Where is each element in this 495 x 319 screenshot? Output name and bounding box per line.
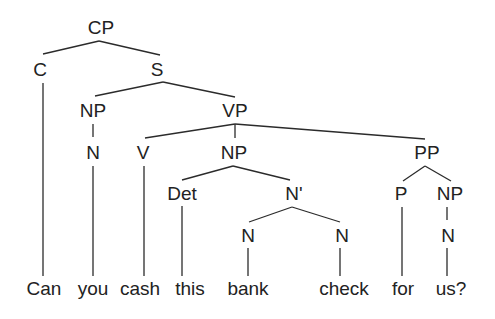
tree-node-det: Det: [167, 184, 197, 203]
tree-edge: [292, 207, 340, 222]
tree-edge: [249, 207, 292, 222]
tree-node-n4: N: [441, 226, 455, 245]
tree-edge: [235, 124, 425, 139]
word-for: for: [392, 279, 414, 298]
tree-edge: [99, 41, 160, 55]
tree-node-cp: CP: [88, 18, 114, 37]
tree-node-nbar: N': [285, 184, 302, 203]
tree-edge: [233, 166, 290, 180]
tree-node-n1: N: [86, 143, 100, 162]
tree-edge: [425, 166, 451, 181]
word-check: check: [319, 279, 369, 298]
tree-node-np1: NP: [80, 101, 106, 120]
tree-edge: [182, 166, 233, 180]
tree-node-pp: PP: [414, 143, 439, 162]
tree-node-p: P: [395, 184, 408, 203]
tree-edge: [43, 41, 99, 54]
word-can: Can: [27, 279, 62, 298]
tree-node-np3: NP: [437, 184, 463, 203]
tree-node-s: S: [151, 60, 164, 79]
tree-edge: [403, 166, 425, 181]
syntax-tree-diagram: CPCSNPVPNVNPPPDetN'PNPNNN Canyoucashthis…: [0, 0, 495, 319]
tree-edge: [95, 82, 163, 96]
word-cash: cash: [120, 279, 160, 298]
word-this: this: [175, 279, 205, 298]
tree-node-np2: NP: [221, 143, 247, 162]
word-us: us?: [436, 279, 467, 298]
word-bank: bank: [227, 279, 268, 298]
tree-node-c: C: [33, 60, 47, 79]
tree-node-vp: VP: [222, 101, 247, 120]
tree-edge: [145, 124, 235, 138]
tree-node-n2: N: [241, 226, 255, 245]
tree-edge: [163, 82, 235, 97]
word-you: you: [78, 279, 109, 298]
tree-node-n3: N: [335, 226, 349, 245]
tree-node-v: V: [137, 143, 150, 162]
